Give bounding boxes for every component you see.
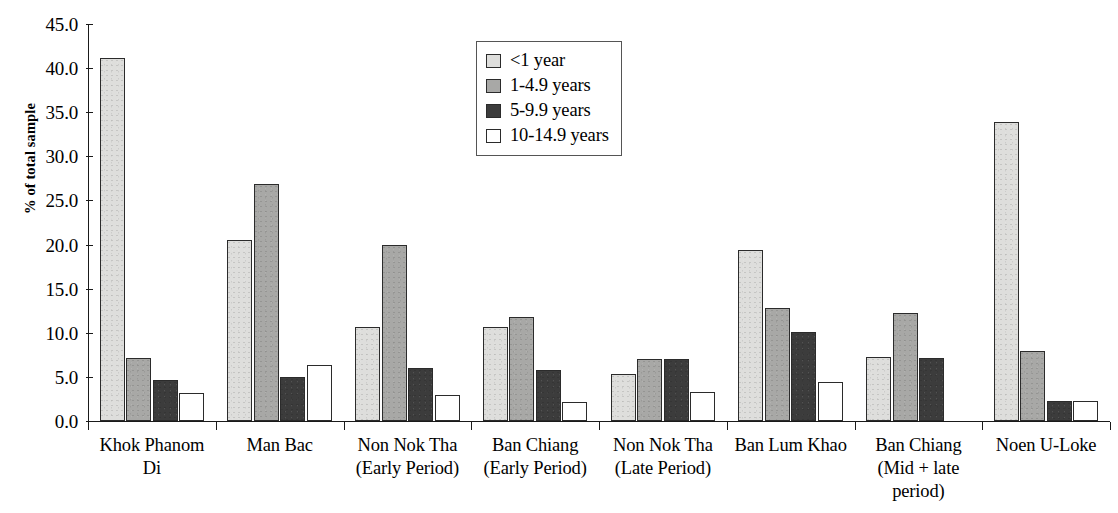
legend-label: 5-9.9 years	[510, 101, 591, 120]
bar-group	[344, 24, 472, 421]
bar-group	[855, 24, 983, 421]
legend-swatch-icon	[486, 129, 501, 143]
bar	[866, 357, 891, 421]
legend-item: 5-9.9 years	[486, 98, 609, 123]
bar	[1073, 401, 1098, 421]
bar-group	[727, 24, 855, 421]
bar	[179, 393, 204, 421]
bar	[307, 365, 332, 421]
y-axis-tick-mark	[86, 200, 93, 201]
y-axis-tick-label: 25.0	[22, 191, 78, 210]
bar	[1047, 401, 1072, 421]
bar	[509, 317, 534, 421]
bar	[254, 184, 279, 421]
x-axis-label-line: (Mid + late	[843, 457, 995, 480]
legend-label: <1 year	[510, 51, 565, 70]
x-axis-divider	[855, 422, 856, 430]
y-axis-tick-label: 15.0	[22, 279, 78, 298]
x-axis-divider	[88, 422, 89, 430]
y-axis-tick-label: 30.0	[22, 147, 78, 166]
x-axis-divider	[599, 422, 600, 430]
bar	[1020, 351, 1045, 421]
bar-group	[216, 24, 344, 421]
y-axis-tick-label: 10.0	[22, 323, 78, 342]
y-axis-tick-mark	[86, 333, 93, 334]
bar	[562, 402, 587, 421]
legend-swatch-icon	[486, 79, 501, 93]
x-axis-divider	[471, 422, 472, 430]
bar	[355, 327, 380, 421]
x-axis-label-line: Di	[76, 457, 228, 480]
y-axis-tick-mark	[86, 245, 93, 246]
bar	[791, 332, 816, 421]
bar-chart: % of total sample 0.05.010.015.020.025.0…	[0, 0, 1118, 513]
x-axis-divider	[344, 422, 345, 430]
y-axis-tick-mark	[86, 289, 93, 290]
bar	[690, 392, 715, 421]
bar	[664, 359, 689, 421]
y-axis-tick-label: 5.0	[22, 367, 78, 386]
bar	[227, 240, 252, 421]
x-axis-label-line: Noen U-Loke	[970, 434, 1118, 457]
bar	[919, 358, 944, 421]
bar	[611, 374, 636, 421]
legend-label: 10-14.9 years	[510, 126, 609, 145]
chart-legend: <1 year1-4.9 years5-9.9 years10-14.9 yea…	[476, 41, 622, 156]
legend-item: 10-14.9 years	[486, 123, 609, 148]
y-axis-tick-mark	[86, 24, 93, 25]
bar	[893, 313, 918, 421]
bar	[483, 327, 508, 421]
bar	[994, 122, 1019, 421]
y-axis-tick-mark	[86, 377, 93, 378]
x-axis-category-label: Noen U-Loke	[970, 434, 1118, 457]
x-axis-label-line: (Late Period)	[587, 457, 739, 480]
bar	[637, 359, 662, 421]
bar	[435, 395, 460, 421]
bar-group	[982, 24, 1110, 421]
x-axis-divider	[727, 422, 728, 430]
legend-label: 1-4.9 years	[510, 76, 591, 95]
y-axis-tick-mark	[86, 112, 93, 113]
legend-swatch-icon	[486, 104, 501, 118]
bar	[382, 245, 407, 421]
bar	[280, 377, 305, 421]
y-axis-tick-mark	[86, 68, 93, 69]
bar	[408, 368, 433, 421]
legend-item: 1-4.9 years	[486, 73, 609, 98]
bar	[126, 358, 151, 421]
y-axis-tick-label: 0.0	[22, 412, 78, 431]
legend-item: <1 year	[486, 48, 609, 73]
x-axis-category-labels: Khok PhanomDiMan BacNon Nok Tha(Early Pe…	[88, 434, 1110, 513]
legend-swatch-icon	[486, 54, 501, 68]
y-axis-tick-label: 45.0	[22, 15, 78, 34]
bar	[738, 250, 763, 421]
y-axis-tick-label: 40.0	[22, 59, 78, 78]
bar	[100, 58, 125, 421]
y-axis-tick-labels: 0.05.010.015.020.025.030.035.040.045.0	[22, 0, 78, 513]
x-axis-divider	[982, 422, 983, 430]
bar	[818, 382, 843, 421]
bar-group	[88, 24, 216, 421]
y-axis-tick-label: 35.0	[22, 103, 78, 122]
x-axis-label-line: period)	[843, 480, 995, 503]
x-axis-divider	[1110, 422, 1111, 430]
bar	[153, 380, 178, 421]
y-axis-tick-label: 20.0	[22, 235, 78, 254]
y-axis-tick-mark	[86, 156, 93, 157]
bar	[536, 370, 561, 421]
x-axis-divider	[216, 422, 217, 430]
bar	[765, 308, 790, 421]
